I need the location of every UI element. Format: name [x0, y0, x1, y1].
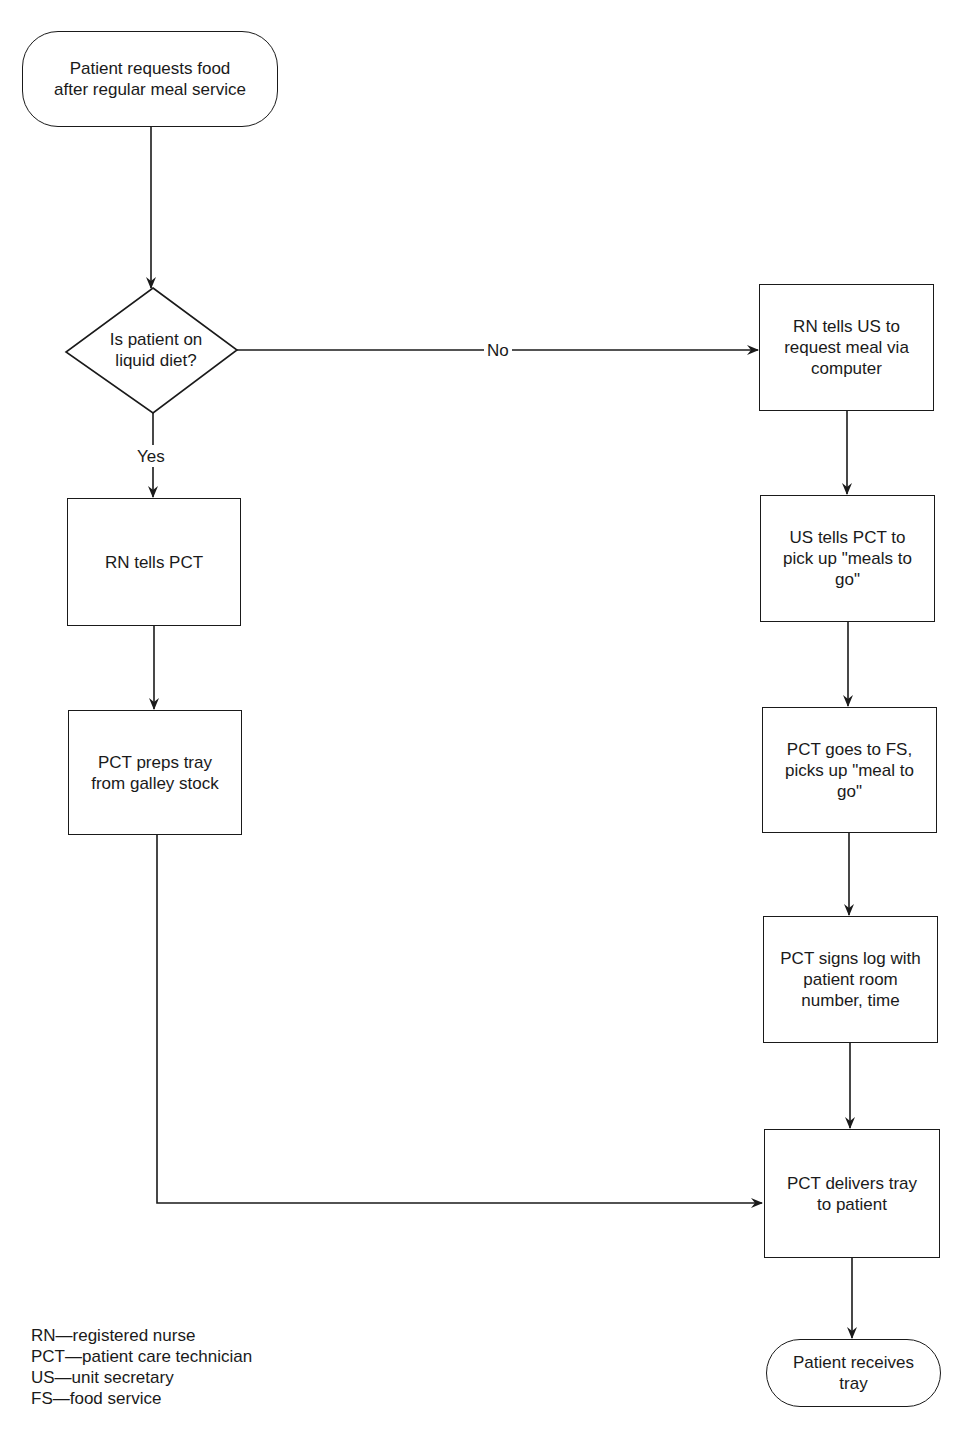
abbreviation-legend: RN—registered nurse PCT—patient care tec… — [31, 1325, 252, 1409]
end-terminal-label: Patient receives tray — [793, 1352, 914, 1394]
legend-item-rn: RN—registered nurse — [31, 1325, 252, 1346]
decision-label: Is patient on liquid diet? — [86, 325, 226, 375]
edge-yes2-to-merge — [157, 835, 762, 1203]
legend-item-pct: PCT—patient care technician — [31, 1346, 252, 1367]
process-rn-tells-pct: RN tells PCT — [67, 498, 241, 626]
legend-item-us: US—unit secretary — [31, 1367, 252, 1388]
process-label: PCT preps tray from galley stock — [91, 752, 219, 794]
start-terminal: Patient requests food after regular meal… — [22, 31, 278, 127]
legend-item-fs: FS—food service — [31, 1388, 252, 1409]
edge-label-no: No — [486, 341, 510, 361]
end-terminal: Patient receives tray — [766, 1339, 941, 1407]
process-label: US tells PCT to pick up "meals to go" — [783, 527, 912, 590]
process-pct-goes-to-fs: PCT goes to FS, picks up "meal to go" — [762, 707, 937, 833]
process-us-tells-pct: US tells PCT to pick up "meals to go" — [760, 495, 935, 622]
process-label: RN tells PCT — [105, 552, 203, 573]
process-label: PCT goes to FS, picks up "meal to go" — [785, 739, 914, 802]
process-pct-preps-tray: PCT preps tray from galley stock — [68, 710, 242, 835]
start-terminal-label: Patient requests food after regular meal… — [54, 58, 246, 100]
process-label: PCT signs log with patient room number, … — [780, 948, 920, 1011]
edge-label-yes: Yes — [136, 447, 166, 467]
process-label: RN tells US to request meal via computer — [784, 316, 909, 379]
flowchart-canvas: Patient requests food after regular meal… — [0, 0, 962, 1433]
process-pct-signs-log: PCT signs log with patient room number, … — [763, 916, 938, 1043]
process-label: PCT delivers tray to patient — [787, 1173, 917, 1215]
process-rn-tells-us: RN tells US to request meal via computer — [759, 284, 934, 411]
process-pct-delivers-tray: PCT delivers tray to patient — [764, 1129, 940, 1258]
